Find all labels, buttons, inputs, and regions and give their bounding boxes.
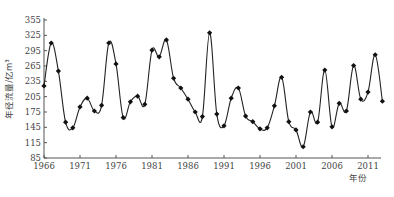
y-tick-label: 325 xyxy=(25,30,41,40)
y-tick-label: 175 xyxy=(25,107,41,117)
y-tick-label: 205 xyxy=(25,92,41,102)
data-point-marker xyxy=(286,119,291,124)
runoff-line xyxy=(44,33,382,147)
data-point-marker xyxy=(77,104,82,109)
figure-caption-clipped xyxy=(0,189,394,197)
data-point-marker xyxy=(171,76,176,81)
x-tick-label: 1976 xyxy=(105,161,127,171)
data-point-marker xyxy=(99,103,104,108)
x-tick-label: 1966 xyxy=(33,161,55,171)
data-point-marker xyxy=(113,61,118,66)
data-point-marker xyxy=(243,113,248,118)
y-tick-label: 265 xyxy=(25,61,41,71)
data-point-marker xyxy=(185,97,190,102)
x-axis-title: 年份 xyxy=(349,173,367,183)
data-point-marker xyxy=(200,114,205,119)
x-tick-label: 2006 xyxy=(321,161,343,171)
data-point-marker xyxy=(272,103,277,108)
y-axis-title: 年径流量/亿m³ xyxy=(4,59,14,119)
x-axis: 1966197119761981198619911996200120062011 xyxy=(33,155,381,171)
data-point-marker xyxy=(365,89,370,94)
y-tick-label: 295 xyxy=(25,46,41,56)
y-tick-label: 235 xyxy=(25,76,41,86)
y-tick-label: 115 xyxy=(25,138,41,148)
data-point-marker xyxy=(207,30,212,35)
x-tick-label: 1971 xyxy=(69,161,91,171)
y-tick-label: 145 xyxy=(25,122,41,132)
data-point-marker xyxy=(236,85,241,90)
x-tick-label: 2001 xyxy=(285,161,307,171)
x-tick-label: 1986 xyxy=(177,161,199,171)
x-tick-label: 2011 xyxy=(357,161,379,171)
y-axis: 85115145175205235265295325355 xyxy=(25,15,47,163)
data-point-markers xyxy=(41,30,385,149)
x-tick-label: 1981 xyxy=(141,161,163,171)
data-point-marker xyxy=(121,115,126,120)
line-chart: 85115145175205235265295325355 1966197119… xyxy=(0,0,394,197)
data-point-marker xyxy=(214,111,219,116)
data-point-marker xyxy=(322,67,327,72)
x-tick-label: 1991 xyxy=(213,161,235,171)
data-point-marker xyxy=(229,96,234,101)
y-tick-label: 355 xyxy=(25,15,41,25)
data-point-marker xyxy=(41,83,46,88)
data-point-marker xyxy=(56,69,61,74)
data-point-marker xyxy=(380,99,385,104)
data-point-marker xyxy=(63,120,68,125)
x-tick-label: 1996 xyxy=(249,161,271,171)
